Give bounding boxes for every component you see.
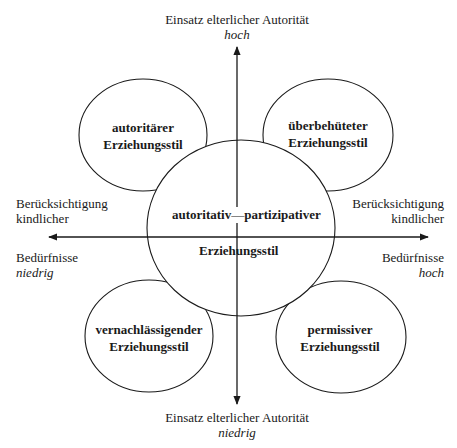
- style-authoritative-word2: partizipativer: [244, 207, 321, 222]
- style-authoritative-erziehungsstil: Erziehungsstil: [199, 243, 278, 258]
- style-authoritarian-line1: autoritärer: [93, 119, 193, 136]
- style-neglectful-line2: Erziehungsstil: [84, 338, 214, 355]
- vertical-axis-bottom-label: Einsatz elterlicher Autorität niedrig: [137, 410, 337, 440]
- horizontal-axis-left-line2: kindlicher: [16, 211, 108, 226]
- vertical-axis-title-top: Einsatz elterlicher Autorität: [137, 12, 337, 27]
- horizontal-axis-right-line2: kindlicher: [352, 211, 444, 226]
- style-authoritative-dash: —: [231, 207, 244, 222]
- vertical-axis-top-label: Einsatz elterlicher Autorität hoch: [137, 12, 337, 42]
- horizontal-axis-right-line1: Berücksichtigung: [352, 196, 444, 211]
- horizontal-axis-right-label-bottom: Bedürfnisse hoch: [382, 250, 444, 280]
- ellipse-center: [147, 140, 335, 316]
- style-overprotective-line1: überbehüteter: [278, 117, 378, 134]
- horizontal-axis-right-line3: Bedürfnisse: [382, 250, 444, 265]
- style-overprotective-line2: Erziehungsstil: [278, 134, 378, 151]
- style-neglectful: vernachlässigender Erziehungsstil: [84, 321, 214, 355]
- vertical-axis-low-value: niedrig: [137, 425, 337, 440]
- style-authoritative-left-word: autoritativ—partizipativer: [172, 207, 321, 223]
- style-authoritarian-line2: Erziehungsstil: [93, 136, 193, 153]
- horizontal-axis-left-label-top: Berücksichtigung kindlicher: [16, 196, 108, 226]
- horizontal-axis-right-label-top: Berücksichtigung kindlicher: [352, 196, 444, 226]
- horizontal-axis-low-value: niedrig: [16, 265, 78, 280]
- style-permissive-line1: permissiver: [290, 321, 390, 338]
- horizontal-axis-left-line3: Bedürfnisse: [16, 250, 78, 265]
- style-authoritative-line2: Erziehungsstil: [199, 243, 278, 259]
- horizontal-axis-left-line1: Berücksichtigung: [16, 196, 108, 211]
- horizontal-axis-left-label-bottom: Bedürfnisse niedrig: [16, 250, 78, 280]
- horizontal-axis-high-value: hoch: [382, 265, 444, 280]
- style-authoritative-word1: autoritativ: [172, 207, 231, 222]
- style-overprotective: überbehüteter Erziehungsstil: [278, 117, 378, 151]
- style-permissive-line2: Erziehungsstil: [290, 338, 390, 355]
- style-neglectful-line1: vernachlässigender: [84, 321, 214, 338]
- vertical-axis-title-bottom: Einsatz elterlicher Autorität: [137, 410, 337, 425]
- style-permissive: permissiver Erziehungsstil: [290, 321, 390, 355]
- vertical-axis-high-value: hoch: [137, 27, 337, 42]
- style-authoritarian: autoritärer Erziehungsstil: [93, 119, 193, 153]
